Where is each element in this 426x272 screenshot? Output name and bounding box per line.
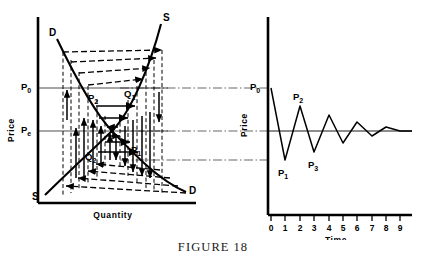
right-label-P3: P3: [308, 159, 318, 172]
demand-label-top: D: [49, 27, 56, 38]
figure-caption-number: 18: [233, 240, 248, 254]
figure-svg: D S S D P0 Pe P2: [0, 0, 426, 240]
svg-text:5: 5: [341, 223, 346, 233]
right-label-P2: P2: [293, 91, 303, 104]
point-label-Q1: Q1: [124, 88, 135, 101]
price-level-label-Pe: Pe: [21, 124, 31, 137]
svg-text:P2: P2: [88, 92, 98, 105]
svg-text:Q2: Q2: [85, 151, 96, 164]
svg-text:6: 6: [355, 223, 360, 233]
figure-container: D S S D P0 Pe P2: [0, 0, 426, 272]
equilibrium-point: [110, 129, 114, 133]
left-axes: [38, 17, 196, 203]
right-axes: [268, 17, 412, 215]
right-label-P1: P1: [278, 167, 288, 180]
svg-text:4: 4: [327, 223, 332, 233]
figure-caption-word: FIGURE: [178, 240, 230, 254]
right-panel-timepath: 0 1 2 3 4 5 6 7 8 9 P0 P2: [239, 17, 412, 240]
svg-text:P2: P2: [293, 91, 303, 104]
right-label-P0: P0: [250, 81, 260, 94]
svg-text:2: 2: [298, 223, 303, 233]
left-price-level-lines: [38, 88, 168, 131]
supply-label-bottom: S: [32, 191, 39, 202]
svg-text:Q1: Q1: [124, 88, 135, 101]
left-y-axis-label: Price: [6, 118, 16, 142]
svg-text:0: 0: [269, 223, 274, 233]
point-label-P2: P2: [88, 92, 98, 105]
svg-text:7: 7: [370, 223, 375, 233]
left-panel-cobweb: D S S D P0 Pe P2: [6, 12, 196, 220]
svg-text:3: 3: [312, 223, 317, 233]
point-label-Q2: Q2: [85, 151, 96, 164]
vertical-arrows-up: [76, 118, 110, 178]
svg-text:Pe: Pe: [21, 124, 31, 137]
svg-text:8: 8: [384, 223, 389, 233]
figure-caption: FIGURE 18: [0, 240, 426, 255]
price-level-label-P0: P0: [21, 81, 31, 94]
svg-text:1: 1: [283, 223, 288, 233]
svg-text:P0: P0: [21, 81, 31, 94]
right-y-axis-label: Price: [239, 113, 249, 137]
svg-text:P0: P0: [250, 81, 260, 94]
svg-text:9: 9: [398, 223, 403, 233]
svg-text:P3: P3: [308, 159, 318, 172]
supply-label-top: S: [163, 12, 170, 23]
time-axis-tick-labels: 0 1 2 3 4 5 6 7 8 9: [269, 223, 403, 233]
left-x-axis-label: Quantity: [93, 210, 132, 220]
svg-text:P1: P1: [278, 167, 288, 180]
demand-label-bottom: D: [189, 185, 196, 196]
